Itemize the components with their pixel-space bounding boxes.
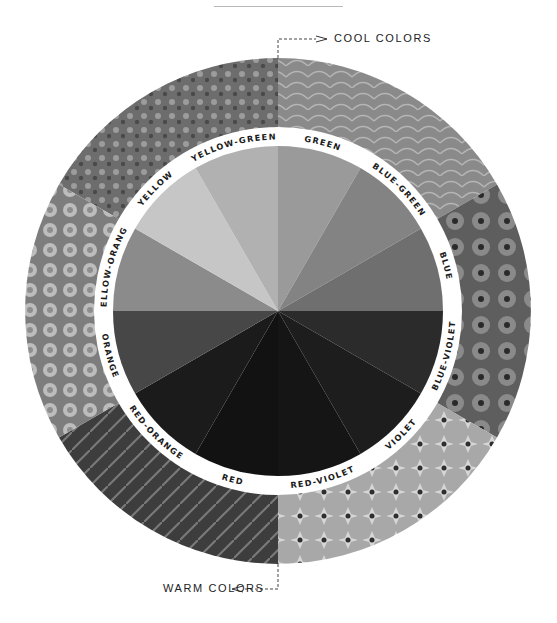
cool-colors-label: COOL COLORS xyxy=(334,32,432,44)
cool-colors-pointer xyxy=(278,36,327,58)
arrow-right-icon xyxy=(316,36,327,42)
warm-colors-label: WARM COLORS xyxy=(163,582,265,594)
wheel-segments xyxy=(113,146,443,476)
color-wheel-diagram: GREENBLUE-GREENBLUEBLUE-VIOLETVIOLETRED-… xyxy=(0,0,557,623)
